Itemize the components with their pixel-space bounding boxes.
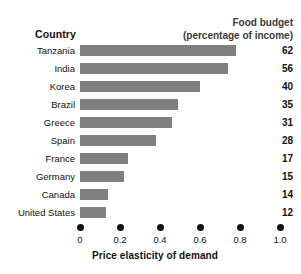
food-budget-title: Food budget — [232, 17, 293, 28]
value-label: 15 — [253, 168, 293, 186]
category-label: France — [0, 150, 75, 168]
x-axis-title: Price elasticity of demand — [40, 250, 270, 261]
bar-row — [80, 186, 280, 204]
bar — [80, 81, 200, 92]
bar-row — [80, 42, 280, 60]
x-axis-tick-labels: 00.20.40.60.81.0 — [80, 234, 280, 248]
bar — [80, 189, 108, 200]
value-label: 31 — [253, 114, 293, 132]
category-label: Canada — [0, 186, 75, 204]
category-label: Brazil — [0, 96, 75, 114]
value-label: 35 — [253, 96, 293, 114]
x-axis-tick-label: 0.8 — [220, 234, 260, 245]
bar-row — [80, 78, 280, 96]
bar — [80, 135, 156, 146]
category-label: Korea — [0, 78, 75, 96]
category-label: Greece — [0, 114, 75, 132]
category-label: United States — [0, 204, 75, 222]
x-axis-tick-label: 0.2 — [100, 234, 140, 245]
x-axis-tick-dot — [237, 224, 244, 231]
column-header-country: Country — [0, 28, 76, 40]
bar-row — [80, 132, 280, 150]
category-label: Germany — [0, 168, 75, 186]
bar-row — [80, 168, 280, 186]
x-axis-tick-label: 0.6 — [180, 234, 220, 245]
bar — [80, 207, 106, 218]
x-axis-tick-label: 0 — [60, 234, 100, 245]
x-axis-tick-dot — [277, 224, 284, 231]
value-label: 62 — [253, 42, 293, 60]
bar-chart-figure: Country Food budget (percentage of incom… — [0, 0, 301, 274]
bar-row — [80, 60, 280, 78]
value-label: 28 — [253, 132, 293, 150]
value-label: 40 — [253, 78, 293, 96]
x-axis-tick-dot — [197, 224, 204, 231]
value-label: 12 — [253, 204, 293, 222]
bar — [80, 99, 178, 110]
x-axis-tick-dot — [157, 224, 164, 231]
bar — [80, 63, 228, 74]
x-axis-tick-dot — [117, 224, 124, 231]
x-axis-tick-dot — [77, 224, 84, 231]
value-label: 14 — [253, 186, 293, 204]
bar — [80, 117, 172, 128]
bar — [80, 45, 236, 56]
bar — [80, 153, 128, 164]
value-label: 17 — [253, 150, 293, 168]
plot-area — [80, 42, 280, 222]
category-label: Spain — [0, 132, 75, 150]
food-budget-subtitle: (percentage of income) — [103, 29, 293, 42]
x-axis-tick-label: 0.4 — [140, 234, 180, 245]
bar-row — [80, 150, 280, 168]
bar-row — [80, 114, 280, 132]
category-label: India — [0, 60, 75, 78]
category-label: Tanzania — [0, 42, 75, 60]
column-header-food-budget: Food budget (percentage of income) — [103, 16, 293, 42]
value-label: 56 — [253, 60, 293, 78]
bar-row — [80, 204, 280, 222]
x-axis-tick-label: 1.0 — [260, 234, 300, 245]
bar — [80, 171, 124, 182]
bar-row — [80, 96, 280, 114]
